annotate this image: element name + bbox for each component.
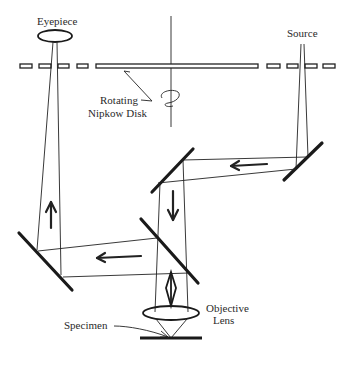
arrow-up-left-icon: [46, 202, 56, 228]
arrow-bidirectional-icon: [166, 272, 176, 306]
rotation-icon: [161, 90, 179, 106]
specimen-pointer: [114, 326, 168, 337]
upper-center-mirror: [152, 149, 193, 192]
objective-label-line2: Lens: [213, 314, 234, 326]
nipkow-disk-label-line1: Rotating: [100, 94, 138, 106]
arrow-left-upper-icon: [231, 161, 267, 170]
beam-left-vertical: [37, 42, 61, 275]
arrow-left-lower-icon: [97, 253, 141, 262]
objective-label-line1: Objective: [206, 302, 249, 314]
nipkow-disk-label-line2: Nipkow Disk: [88, 107, 147, 119]
eyepiece-label: Eyepiece: [37, 15, 77, 27]
arrow-down-center-icon: [168, 191, 178, 220]
left-mirror: [19, 233, 72, 290]
eyepiece-lens: [38, 30, 72, 42]
focus-cone: [156, 319, 187, 338]
confocal-microscope-diagram: Eyepiece Source Rotating Nipkow Disk: [0, 0, 349, 370]
right-mirror: [284, 143, 322, 180]
nipkow-disk: [20, 64, 335, 68]
specimen-label: Specimen: [64, 319, 108, 331]
source-beam: [296, 44, 308, 169]
source-label: Source: [287, 27, 318, 39]
